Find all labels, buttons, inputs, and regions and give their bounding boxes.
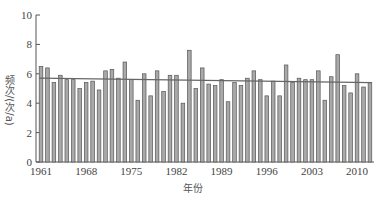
x-tick-label: 1968 (75, 165, 98, 177)
bar (149, 96, 153, 162)
bar (46, 68, 50, 162)
bar (91, 81, 95, 162)
bar (317, 71, 321, 162)
bar (181, 103, 185, 162)
bar (71, 80, 75, 162)
bar (142, 74, 146, 162)
bar (213, 86, 217, 162)
bar (207, 84, 211, 162)
bar (336, 55, 340, 162)
bar (355, 74, 359, 162)
x-tick-label: 1989 (211, 165, 234, 177)
bar (65, 80, 69, 162)
bar (194, 89, 198, 163)
bar (117, 78, 121, 162)
frequency-bar-chart: 024681019611968197519821989199620032010 (0, 0, 385, 199)
bar (304, 80, 308, 162)
y-tick-label: 10 (21, 9, 33, 21)
bar (265, 96, 269, 162)
bar (155, 71, 159, 162)
bar (323, 100, 327, 162)
bar (97, 90, 101, 162)
bar (252, 71, 256, 162)
y-tick-label: 2 (27, 127, 33, 139)
bar (59, 75, 63, 162)
bar (84, 83, 88, 162)
bar (110, 69, 114, 162)
bar (278, 96, 282, 162)
bar (200, 68, 204, 162)
bar (78, 89, 82, 163)
x-tick-label: 2010 (346, 165, 369, 177)
bar (239, 86, 243, 162)
bar (233, 83, 237, 162)
bar (368, 83, 372, 162)
bar (284, 65, 288, 162)
x-tick-label: 1975 (120, 165, 143, 177)
bar (136, 100, 140, 162)
bar (226, 102, 230, 162)
bar (123, 62, 127, 162)
x-axis-title: 年份 (0, 180, 385, 195)
bar (349, 93, 353, 162)
bar (220, 80, 224, 162)
bar (104, 71, 108, 162)
bar (259, 80, 263, 162)
bar (291, 83, 295, 162)
bar (188, 50, 192, 162)
bar (246, 78, 250, 162)
bar (162, 91, 166, 162)
bar (297, 78, 301, 162)
bar (310, 80, 314, 162)
bar (175, 75, 179, 162)
bar (271, 81, 275, 162)
bar (168, 75, 172, 162)
y-axis-title: 频次/(次/a) (2, 60, 16, 140)
bar (130, 80, 134, 162)
trend-line (39, 78, 372, 82)
bar (329, 77, 333, 162)
bars (39, 50, 372, 162)
x-tick-label: 2003 (301, 165, 324, 177)
y-tick-label: 8 (27, 38, 33, 50)
bar (39, 66, 43, 162)
linear-trend (39, 78, 372, 82)
x-tick-label: 1961 (30, 165, 52, 177)
bar (52, 83, 56, 162)
y-tick-label: 4 (27, 97, 33, 109)
x-tick-label: 1996 (256, 165, 279, 177)
x-tick-label: 1982 (165, 165, 187, 177)
y-tick-label: 6 (27, 68, 33, 80)
bar (342, 86, 346, 162)
bar (362, 87, 366, 162)
